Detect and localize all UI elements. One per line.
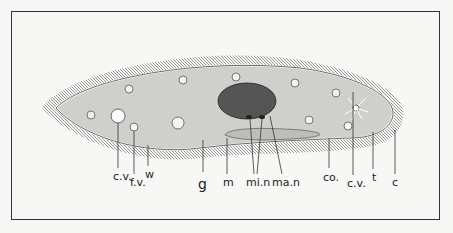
micronucleus (246, 115, 252, 119)
label-w: w (145, 169, 154, 180)
label-fv: f.v. (130, 177, 146, 188)
label-t: t (372, 172, 376, 183)
label-co: co. (323, 172, 339, 183)
paramecium-illustration (0, 0, 453, 233)
micronucleus (259, 115, 265, 119)
label-min: mi.n (246, 177, 270, 188)
label-man: ma.n (272, 177, 300, 188)
label-cv2: c.v. (347, 178, 366, 189)
macronucleus (218, 83, 276, 119)
label-c: c (392, 177, 398, 188)
label-g: g (198, 177, 207, 191)
label-m: m (223, 177, 234, 188)
contractile-vacuole (111, 109, 125, 123)
label-cv1: c.v. (113, 171, 132, 182)
